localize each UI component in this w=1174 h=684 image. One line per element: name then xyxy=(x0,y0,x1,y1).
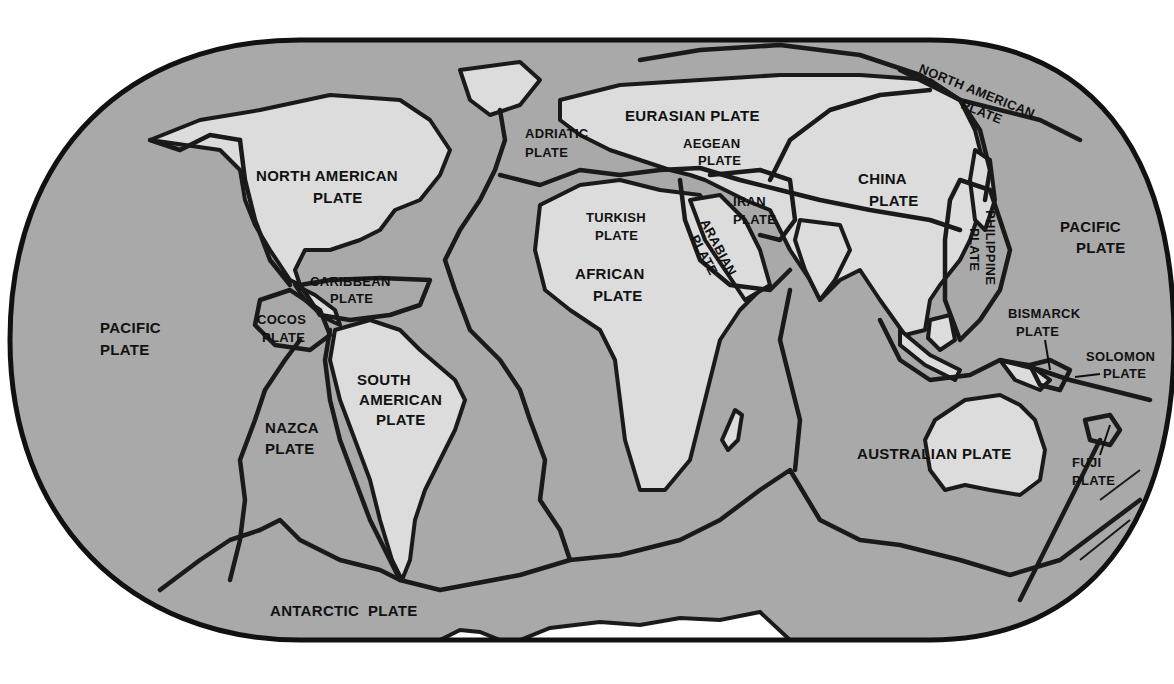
label-cocos-plate-2: PLATE xyxy=(262,330,305,345)
label-turkish-plate: TURKISH xyxy=(586,210,646,225)
label-iran-plate: IRAN xyxy=(733,194,766,209)
label-south-american-plate-2: AMERICAN xyxy=(359,391,442,408)
label-pacific-plate-east: PACIFIC xyxy=(1060,218,1121,235)
label-turkish-plate-2: PLATE xyxy=(595,228,638,243)
label-nazca-plate-2: PLATE xyxy=(265,440,315,457)
label-adriatic-plate: ADRIATIC xyxy=(525,126,589,141)
label-pacific-plate-west-2: PLATE xyxy=(100,341,150,358)
label-philippine-plate: PHILIPPINE xyxy=(983,210,998,285)
label-nazca-plate: NAZCA xyxy=(265,419,319,436)
label-aegean-plate: AEGEAN xyxy=(683,136,740,151)
label-solomon-plate: SOLOMON xyxy=(1086,349,1155,364)
label-solomon-plate-2: PLATE xyxy=(1103,366,1146,381)
label-south-american-plate-3: PLATE xyxy=(376,411,426,428)
label-philippine-plate-2: PLATE xyxy=(967,228,982,271)
label-iran-plate-2: PLATE xyxy=(733,212,776,227)
label-fuji-plate-2: PLATE xyxy=(1072,473,1115,488)
label-eurasian-plate: EURASIAN PLATE xyxy=(625,107,760,124)
label-fuji-plate: FUJI xyxy=(1072,455,1101,470)
label-south-american-plate: SOUTH xyxy=(357,371,411,388)
label-north-american-plate-2: PLATE xyxy=(313,189,363,206)
label-bismarck-plate: BISMARCK xyxy=(1008,306,1081,321)
label-aegean-plate-2: PLATE xyxy=(698,153,741,168)
label-australian-plate: AUSTRALIAN PLATE xyxy=(857,445,1012,462)
label-african-plate: AFRICAN xyxy=(575,265,645,282)
label-adriatic-plate-2: PLATE xyxy=(525,145,568,160)
label-antarctic-plate: ANTARCTIC PLATE xyxy=(270,602,418,619)
label-north-american-plate: NORTH AMERICAN xyxy=(256,167,398,184)
label-african-plate-2: PLATE xyxy=(593,287,643,304)
label-pacific-plate-west: PACIFIC xyxy=(100,319,161,336)
label-china-plate: CHINA xyxy=(858,170,907,187)
label-china-plate-2: PLATE xyxy=(869,192,919,209)
label-caribbean-plate-2: PLATE xyxy=(330,291,373,306)
label-caribbean-plate: CARIBBEAN xyxy=(310,274,391,289)
label-cocos-plate: COCOS xyxy=(257,312,306,327)
tectonic-plates-map: NORTH AMERICAN PLATE EURASIAN PLATE ADRI… xyxy=(0,0,1174,684)
label-bismarck-plate-2: PLATE xyxy=(1016,324,1059,339)
label-pacific-plate-east-2: PLATE xyxy=(1076,239,1126,256)
